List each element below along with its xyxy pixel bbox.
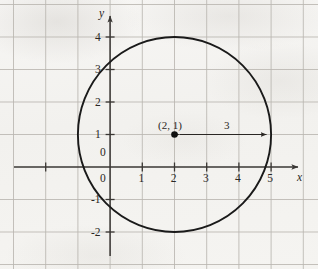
- y-axis-label: y: [99, 8, 104, 20]
- y-tick-label-1: 1: [95, 129, 101, 141]
- x-tick-label-1: 1: [139, 173, 145, 185]
- x-tick-label-2: 2: [171, 173, 177, 185]
- axes: [14, 16, 298, 256]
- x-tick-label-3: 3: [203, 173, 209, 185]
- coordinate-plot: [0, 0, 318, 269]
- center-point-marker: [171, 131, 178, 138]
- y-tick-label-3: 3: [95, 64, 101, 76]
- y-tick-label-2: 2: [95, 97, 101, 109]
- x-tick-label-0: 0: [100, 173, 106, 185]
- y-tick-label-0: 0: [100, 147, 106, 159]
- radius-label: 3: [224, 120, 230, 131]
- center-point-label: (2, 1): [158, 120, 182, 131]
- x-axis-label: x: [297, 172, 302, 184]
- figure-container: 0 1 2 3 4 5 4 3 2 1 0 -1 -2 x y (2, 1) 3: [0, 0, 318, 269]
- x-tick-label-4: 4: [235, 173, 241, 185]
- x-tick-label-5: 5: [267, 173, 273, 185]
- y-tick-label-neg1: -1: [91, 194, 101, 206]
- y-tick-label-4: 4: [95, 32, 101, 44]
- y-tick-label-neg2: -2: [91, 227, 101, 239]
